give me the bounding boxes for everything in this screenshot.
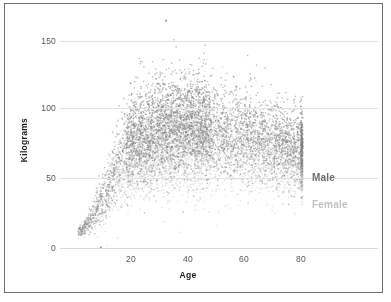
x-tick-20: 20 [118, 254, 144, 264]
y-tick-50: 50 [30, 173, 56, 183]
x-tick-60: 60 [231, 254, 257, 264]
gridline-150 [60, 41, 378, 42]
y-tick-0: 0 [30, 243, 56, 253]
y-tick-100: 100 [30, 103, 56, 113]
x-axis-title: Age [160, 270, 216, 280]
gridline-100 [60, 108, 378, 109]
gridline-0 [60, 248, 378, 249]
y-axis-title: Kilograms [19, 105, 29, 175]
y-tick-150: 150 [30, 36, 56, 46]
legend-item-female: Female [312, 199, 348, 210]
x-tick-40: 40 [175, 254, 201, 264]
chart-figure: 150 100 50 0 20 40 60 80 Kilograms Age M… [0, 0, 391, 302]
x-tick-80: 80 [288, 254, 314, 264]
legend-item-male: Male [312, 172, 335, 183]
